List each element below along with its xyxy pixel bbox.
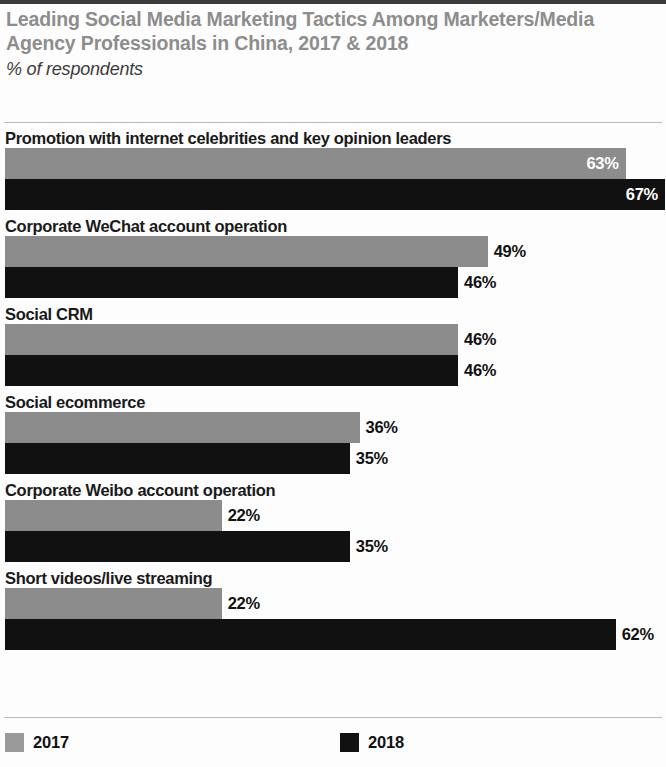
- bar-row: 35%: [0, 443, 666, 474]
- bar-group: Corporate WeChat account operation49%46%: [0, 216, 666, 298]
- category-label: Promotion with internet celebrities and …: [0, 128, 666, 148]
- bar-row: 49%: [0, 236, 666, 267]
- chart-figure: Leading Social Media Marketing Tactics A…: [0, 0, 666, 767]
- header-divider: [4, 122, 662, 123]
- legend-item-2018[interactable]: 2018: [340, 733, 404, 752]
- legend-swatch-icon: [5, 733, 24, 752]
- bar-2017: [5, 324, 458, 355]
- bar-2018: [5, 619, 616, 650]
- bar-value-label: 46%: [464, 355, 496, 386]
- bar-value-label: 22%: [228, 500, 260, 531]
- bar-row: 46%: [0, 324, 666, 355]
- bar-value-label: 35%: [356, 443, 388, 474]
- bar-group: Social ecommerce36%35%: [0, 392, 666, 474]
- top-border-rule: [0, 0, 666, 4]
- bar-row: 67%: [0, 179, 666, 210]
- category-label: Corporate WeChat account operation: [0, 216, 666, 236]
- category-label: Corporate Weibo account operation: [0, 480, 666, 500]
- chart-subtitle: % of respondents: [6, 58, 636, 80]
- legend-item-2017[interactable]: 2017: [5, 733, 69, 752]
- bar-row: 63%: [0, 148, 666, 179]
- bar-2017: [5, 500, 222, 531]
- bar-row: 35%: [0, 531, 666, 562]
- chart-legend: 20172018: [5, 733, 661, 757]
- bar-value-label: 49%: [494, 236, 526, 267]
- bar-2017: [5, 412, 360, 443]
- chart-header: Leading Social Media Marketing Tactics A…: [6, 8, 636, 80]
- bar-2018: [5, 267, 458, 298]
- bar-group: Corporate Weibo account operation22%35%: [0, 480, 666, 562]
- bar-value-label: 36%: [366, 412, 398, 443]
- bar-2017: [5, 588, 222, 619]
- bar-group: Promotion with internet celebrities and …: [0, 128, 666, 210]
- bar-row: 46%: [0, 355, 666, 386]
- bar-2018: 67%: [5, 179, 665, 210]
- bar-row: 46%: [0, 267, 666, 298]
- bar-2018: [5, 443, 350, 474]
- chart-title: Leading Social Media Marketing Tactics A…: [6, 8, 636, 55]
- bar-value-label: 62%: [622, 619, 654, 650]
- bar-row: 62%: [0, 619, 666, 650]
- bar-row: 22%: [0, 500, 666, 531]
- bar-2018: [5, 355, 458, 386]
- bar-value-label: 35%: [356, 531, 388, 562]
- bar-value-label: 46%: [464, 324, 496, 355]
- bar-2017: 63%: [5, 148, 626, 179]
- bar-value-label: 63%: [586, 148, 618, 179]
- bar-2018: [5, 531, 350, 562]
- category-label: Short videos/live streaming: [0, 568, 666, 588]
- legend-swatch-icon: [340, 733, 359, 752]
- bar-row: 22%: [0, 588, 666, 619]
- category-label: Social ecommerce: [0, 392, 666, 412]
- legend-label: 2017: [33, 733, 69, 752]
- bar-row: 36%: [0, 412, 666, 443]
- bar-value-label: 46%: [464, 267, 496, 298]
- category-label: Social CRM: [0, 304, 666, 324]
- bar-value-label: 22%: [228, 588, 260, 619]
- legend-label: 2018: [368, 733, 404, 752]
- bar-value-label: 67%: [626, 179, 658, 210]
- bar-group: Social CRM46%46%: [0, 304, 666, 386]
- chart-plot-area: Promotion with internet celebrities and …: [0, 128, 666, 656]
- bar-2017: [5, 236, 488, 267]
- bar-group: Short videos/live streaming22%62%: [0, 568, 666, 650]
- legend-divider: [4, 717, 662, 718]
